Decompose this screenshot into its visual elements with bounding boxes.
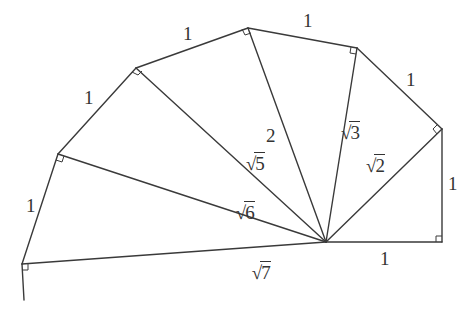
right-angle-marker-2 (433, 125, 437, 134)
label-sqrt6: √6 (236, 203, 255, 222)
unit-edge-4 (248, 28, 357, 48)
right-angle-marker-1 (436, 236, 442, 242)
spoke-2 (248, 28, 326, 242)
spiral-of-theodorus-diagram: 1 1 1 1 1 1 1 √2 √3 2 √5 √6 √7 (0, 0, 465, 316)
label-unit-2: 1 (448, 174, 458, 193)
label-unit-3: 1 (406, 70, 416, 89)
spoke-sqrt7 (22, 242, 326, 264)
label-sqrt5: √5 (246, 154, 265, 173)
spoke-sqrt6 (58, 154, 326, 242)
label-sqrt3: √3 (341, 123, 360, 142)
spoke-sqrt5 (136, 68, 326, 242)
label-unit-7: 1 (26, 196, 36, 215)
label-unit-1: 1 (380, 249, 390, 268)
spoke-sqrt3 (326, 48, 357, 242)
label-unit-4: 1 (303, 11, 313, 30)
label-sqrt2: √2 (366, 156, 385, 175)
tail-edge (22, 264, 24, 300)
label-sqrt7: √7 (252, 263, 271, 282)
unit-edge-3 (357, 48, 442, 129)
spoke-sqrt2 (326, 129, 442, 242)
label-unit-6: 1 (84, 88, 94, 107)
label-unit-5: 1 (183, 24, 193, 43)
hypotenuse-spokes (22, 28, 442, 264)
unit-edge-6 (58, 68, 136, 154)
diagram-canvas (0, 0, 465, 316)
right-angle-markers (22, 29, 442, 270)
label-2: 2 (266, 126, 276, 145)
